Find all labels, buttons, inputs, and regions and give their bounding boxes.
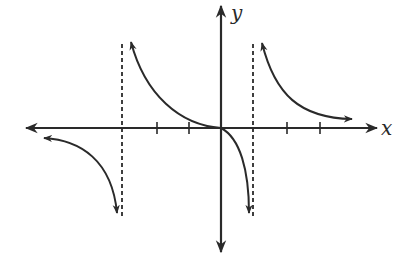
rational-function-graph: y x: [0, 0, 393, 255]
far-left-branch: [44, 138, 117, 213]
y-axis-label: y: [230, 1, 243, 25]
far-right-branch: [262, 43, 352, 119]
x-axis-label: x: [381, 116, 392, 140]
